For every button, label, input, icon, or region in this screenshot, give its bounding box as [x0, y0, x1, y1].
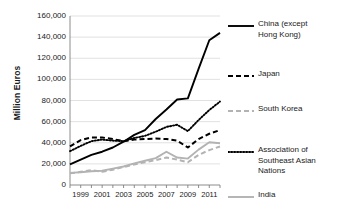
y-tick-label: 160,000 — [12, 12, 66, 20]
y-tick-label: 0 — [12, 181, 66, 189]
legend-label: Japan — [258, 69, 280, 80]
solid-black-line-icon — [228, 21, 254, 31]
dashed-gray-line-icon — [228, 106, 254, 116]
y-tick-label: 140,000 — [12, 33, 66, 41]
x-tick-label: 2009 — [180, 191, 197, 199]
series-line — [70, 102, 220, 152]
y-tick-label: 20,000 — [12, 160, 66, 168]
legend-label: India — [258, 190, 275, 201]
series-line — [70, 130, 220, 147]
y-axis-tick-labels: 020,00040,00060,00080,000100,000120,0001… — [12, 0, 66, 210]
y-tick-label: 80,000 — [12, 97, 66, 105]
dotted-black-line-icon — [228, 147, 254, 157]
y-tick-label: 120,000 — [12, 54, 66, 62]
y-tick-label: 100,000 — [12, 75, 66, 83]
x-axis-tick-labels: 1999200120032005200720092011 — [70, 191, 222, 205]
line-chart: Million Euros 020,00040,00060,00080,0001… — [0, 0, 341, 210]
legend-label: China (except Hong Kong) — [258, 19, 307, 40]
x-tick-label: 2011 — [201, 191, 217, 199]
solid-gray-line-icon — [228, 192, 254, 202]
series-line — [70, 33, 220, 165]
y-tick-label: 40,000 — [12, 139, 66, 147]
dashed-black-line-icon — [228, 71, 254, 81]
legend-entry[interactable]: India — [228, 190, 340, 202]
x-tick-label: 2007 — [158, 191, 175, 199]
legend-label: South Korea — [258, 104, 302, 115]
legend-entry[interactable]: Association of Southeast Asian Nations — [228, 145, 340, 177]
plot-svg — [70, 16, 220, 185]
legend-entry[interactable]: South Korea — [228, 104, 340, 116]
series-line — [70, 142, 220, 173]
x-tick-label: 1999 — [72, 191, 89, 199]
plot-area — [70, 16, 220, 185]
y-tick-label: 60,000 — [12, 118, 66, 126]
legend-entry[interactable]: China (except Hong Kong) — [228, 19, 340, 40]
legend-label: Association of Southeast Asian Nations — [258, 145, 316, 177]
legend-entry[interactable]: Japan — [228, 69, 340, 81]
chart-legend: China (except Hong Kong)JapanSouth Korea… — [228, 8, 340, 208]
x-tick-label: 2001 — [94, 191, 111, 199]
x-tick-label: 2005 — [137, 191, 154, 199]
x-tick-label: 2003 — [115, 191, 132, 199]
